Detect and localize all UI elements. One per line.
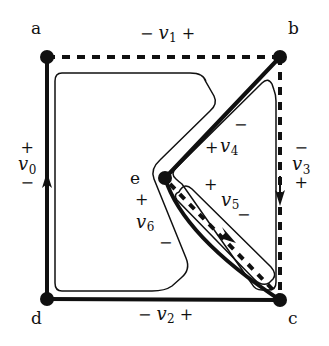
node-d-dot: [40, 292, 54, 306]
voltage-label-v6: v6: [136, 213, 154, 233]
v0-minus-sign: −: [20, 176, 33, 190]
node-label-b: b: [288, 20, 299, 37]
node-e-dot: [158, 171, 172, 185]
v1-symbol: v1: [158, 24, 176, 44]
v1-minus-sign: −: [140, 26, 153, 42]
v5-minus-sign: −: [237, 207, 250, 223]
v3-plus-sign: +: [294, 176, 307, 190]
voltage-label-v2: − v2 +: [138, 305, 193, 325]
v2-plus-sign: +: [180, 307, 193, 323]
node-c-dot: [273, 293, 287, 307]
arrow-v0-up: [42, 172, 52, 196]
circuit-graph-figure: [0, 0, 329, 346]
v6-plus-sign: +: [135, 192, 148, 208]
voltage-label-v1: − v1 +: [140, 24, 195, 44]
v2-minus-sign: −: [138, 307, 151, 323]
edge-v2-d-c: [47, 299, 280, 300]
voltage-label-v0: + v0 −: [18, 141, 36, 191]
v5-plus-sign: +: [204, 177, 217, 193]
v4-plus-sign: +: [205, 140, 218, 156]
v2-symbol: v2: [156, 305, 174, 325]
node-a-dot: [40, 50, 54, 64]
edge-v4-e-b: [165, 57, 280, 178]
node-b-dot: [273, 50, 287, 64]
v6-minus-sign: −: [159, 235, 172, 251]
node-label-a: a: [31, 20, 41, 37]
v4-minus-sign: −: [234, 117, 247, 133]
voltage-label-v3: − v3 +: [292, 141, 310, 191]
node-label-e: e: [130, 170, 140, 187]
node-label-d: d: [31, 310, 42, 327]
node-label-c: c: [288, 310, 298, 327]
v1-plus-sign: +: [182, 26, 195, 42]
voltage-label-v4: v4: [220, 137, 238, 157]
